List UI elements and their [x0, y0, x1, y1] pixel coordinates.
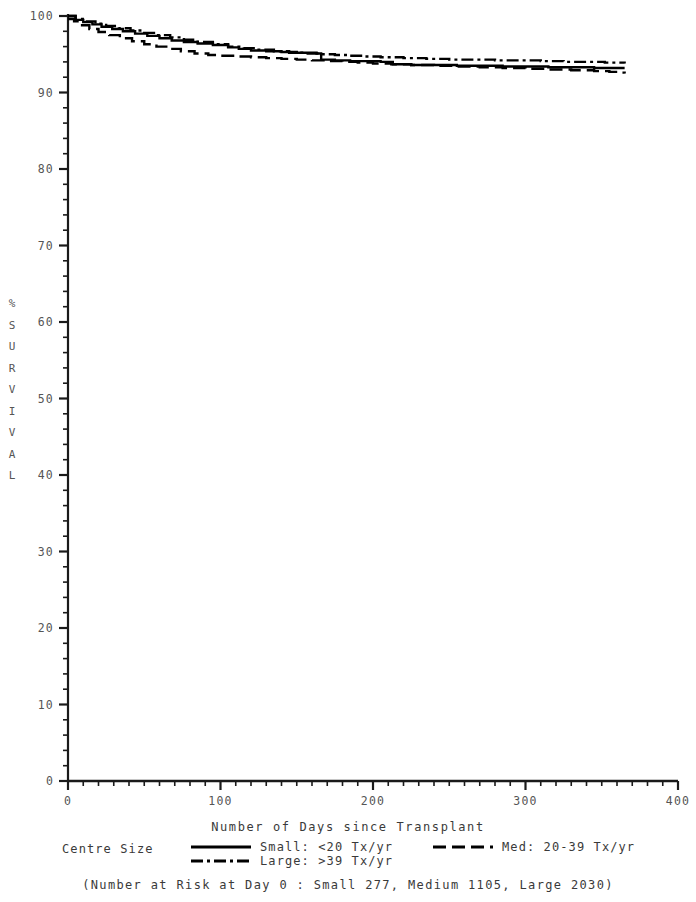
legend-line-solid-icon: [190, 841, 252, 853]
chart-legend: Centre Size Small: <20 Tx/yr Med: 20-39 …: [0, 840, 696, 874]
y-tick-label: 20: [0, 621, 54, 635]
y-tick-label: 60: [0, 315, 54, 329]
legend-entry-large: Large: >39 Tx/yr: [190, 854, 393, 868]
y-tick-label: 70: [0, 239, 54, 253]
legend-label-small: Small: <20 Tx/yr: [260, 840, 393, 854]
plot-area: %SURVIVAL 010020030040001020304050607080…: [0, 0, 696, 800]
legend-label-med: Med: 20-39 Tx/yr: [502, 840, 635, 854]
y-axis-title-char: %: [4, 293, 20, 315]
x-tick-label: 400: [656, 794, 696, 808]
y-tick-label: 100: [0, 9, 54, 23]
at-risk-footnote: (Number at Risk at Day 0 : Small 277, Me…: [0, 878, 696, 892]
y-tick-label: 50: [0, 392, 54, 406]
y-axis-title-char: R: [4, 358, 20, 380]
legend-line-dashdot-icon: [190, 855, 252, 867]
y-tick-label: 40: [0, 468, 54, 482]
y-tick-label: 10: [0, 698, 54, 712]
legend-title: Centre Size: [62, 842, 154, 856]
legend-entry-small: Small: <20 Tx/yr: [190, 840, 393, 854]
y-tick-label: 80: [0, 162, 54, 176]
x-tick-label: 100: [199, 794, 243, 808]
x-tick-label: 200: [351, 794, 395, 808]
legend-entry-med: Med: 20-39 Tx/yr: [432, 840, 635, 854]
survival-chart-figure: %SURVIVAL 010020030040001020304050607080…: [0, 0, 696, 902]
series-line-dashdot: [68, 16, 625, 63]
series-line-dashed: [68, 19, 625, 73]
series-layer: [68, 16, 625, 73]
y-axis-title-char: V: [4, 422, 20, 444]
x-tick-label: 0: [46, 794, 90, 808]
legend-label-large: Large: >39 Tx/yr: [260, 854, 393, 868]
y-axis-title-char: U: [4, 336, 20, 358]
y-tick-label: 90: [0, 86, 54, 100]
axis-layer: [59, 14, 678, 790]
plot-canvas: [0, 0, 696, 800]
y-tick-label: 0: [0, 774, 54, 788]
y-tick-label: 30: [0, 545, 54, 559]
y-axis-title-char: A: [4, 444, 20, 466]
x-tick-label: 300: [504, 794, 548, 808]
legend-line-dashed-icon: [432, 841, 494, 853]
x-axis-title: Number of Days since Transplant: [0, 820, 696, 834]
